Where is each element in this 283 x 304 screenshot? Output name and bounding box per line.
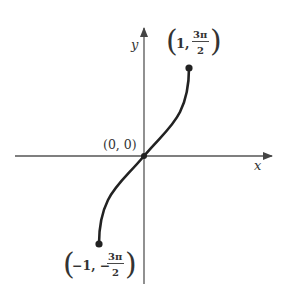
top-endpoint-dot bbox=[185, 64, 192, 71]
svg-text:): ) bbox=[125, 246, 137, 281]
origin-dot bbox=[141, 153, 147, 159]
svg-text:): ) bbox=[210, 23, 222, 58]
svg-text:3π: 3π bbox=[108, 251, 122, 262]
y-axis-label: y bbox=[130, 37, 139, 52]
svg-text:−1, −: −1, − bbox=[72, 258, 110, 273]
arcsin-graph: y x (0, 0) ( 1, 3π 2 ) ( −1, − 3π 2 ) bbox=[0, 0, 283, 304]
svg-text:3π: 3π bbox=[193, 29, 207, 40]
origin-label: (0, 0) bbox=[103, 137, 137, 152]
bottom-endpoint-label: ( −1, − 3π 2 ) bbox=[63, 246, 137, 281]
x-axis-label: x bbox=[254, 158, 262, 173]
top-endpoint-label: ( 1, 3π 2 ) bbox=[166, 23, 222, 58]
svg-text:1,: 1, bbox=[176, 36, 190, 51]
bottom-endpoint-dot bbox=[95, 240, 102, 247]
svg-text:2: 2 bbox=[112, 267, 119, 278]
svg-text:2: 2 bbox=[197, 45, 204, 56]
